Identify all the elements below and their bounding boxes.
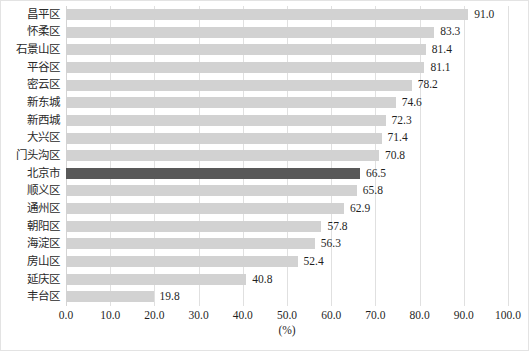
bar-row[interactable]: 海淀区56.3 — [66, 235, 508, 253]
bar[interactable] — [66, 150, 379, 161]
bar[interactable] — [66, 80, 412, 91]
category-label: 大兴区 — [27, 133, 60, 145]
bar[interactable] — [66, 203, 344, 214]
bar-value-label: 62.9 — [350, 203, 370, 215]
bar-row[interactable]: 怀柔区83.3 — [66, 24, 508, 42]
bar-row[interactable]: 北京市66.5 — [66, 165, 508, 183]
bar[interactable] — [66, 256, 298, 267]
category-label: 通州区 — [27, 203, 60, 215]
category-label: 丰台区 — [27, 291, 60, 303]
category-label: 石景山区 — [16, 44, 60, 56]
bar-row[interactable]: 石景山区81.4 — [66, 41, 508, 59]
bar[interactable] — [66, 97, 396, 108]
category-label: 门头沟区 — [16, 150, 60, 162]
bar[interactable] — [66, 133, 382, 144]
bar-row[interactable]: 延庆区40.8 — [66, 271, 508, 289]
bar[interactable] — [66, 44, 426, 55]
bar-value-label: 91.0 — [474, 9, 494, 21]
bar-value-label: 83.3 — [440, 27, 460, 39]
bar-row[interactable]: 顺义区65.8 — [66, 182, 508, 200]
bar-row[interactable]: 新东城74.6 — [66, 94, 508, 112]
category-label: 北京市 — [27, 168, 60, 180]
bar-rows: 昌平区91.0怀柔区83.3石景山区81.4平谷区81.1密云区78.2新东城7… — [66, 6, 508, 306]
bar-value-label: 65.8 — [363, 186, 383, 198]
category-label: 海淀区 — [27, 238, 60, 250]
bar-value-label: 71.4 — [388, 133, 408, 145]
bar-row[interactable]: 平谷区81.1 — [66, 59, 508, 77]
category-label: 新西城 — [27, 115, 60, 127]
bar-highlighted[interactable] — [66, 168, 360, 179]
bar-value-label: 40.8 — [252, 274, 272, 286]
bar-row[interactable]: 门头沟区70.8 — [66, 147, 508, 165]
category-label: 顺义区 — [27, 186, 60, 198]
category-label: 延庆区 — [27, 274, 60, 286]
bar-value-label: 52.4 — [304, 256, 324, 268]
plot-area: 昌平区91.0怀柔区83.3石景山区81.4平谷区81.1密云区78.2新东城7… — [66, 6, 508, 306]
x-tick-label: 30.0 — [189, 310, 209, 322]
bar-value-label: 78.2 — [418, 80, 438, 92]
bar[interactable] — [66, 291, 154, 302]
x-tick-label: 100.0 — [495, 310, 521, 322]
bar[interactable] — [66, 185, 357, 196]
bar-value-label: 19.8 — [160, 291, 180, 303]
bar[interactable] — [66, 115, 386, 126]
bar-row[interactable]: 密云区78.2 — [66, 77, 508, 95]
bar-value-label: 70.8 — [385, 150, 405, 162]
bar[interactable] — [66, 274, 246, 285]
bar-value-label: 66.5 — [366, 168, 386, 180]
bar-chart: 昌平区91.0怀柔区83.3石景山区81.4平谷区81.1密云区78.2新东城7… — [0, 0, 529, 351]
bar-row[interactable]: 大兴区71.4 — [66, 130, 508, 148]
x-tick-label: 10.0 — [100, 310, 120, 322]
bar-value-label: 81.4 — [432, 44, 452, 56]
category-label: 朝阳区 — [27, 221, 60, 233]
bar[interactable] — [66, 9, 468, 20]
bar[interactable] — [66, 27, 434, 38]
x-tick-label: 20.0 — [144, 310, 164, 322]
bar-value-label: 81.1 — [430, 62, 450, 74]
bar[interactable] — [66, 221, 321, 232]
gridline-100.0 — [508, 6, 509, 306]
bar[interactable] — [66, 238, 315, 249]
x-tick-label: 70.0 — [365, 310, 385, 322]
bar-value-label: 57.8 — [327, 221, 347, 233]
x-tick-label: 0.0 — [59, 310, 73, 322]
bar-row[interactable]: 丰台区19.8 — [66, 288, 508, 306]
bar[interactable] — [66, 62, 424, 73]
category-label: 怀柔区 — [27, 27, 60, 39]
x-tick-label: 80.0 — [410, 310, 430, 322]
bar-row[interactable]: 新西城72.3 — [66, 112, 508, 130]
category-label: 密云区 — [27, 80, 60, 92]
bar-value-label: 56.3 — [321, 238, 341, 250]
x-axis: 0.010.020.030.040.050.060.070.080.090.01… — [66, 306, 508, 326]
bar-value-label: 72.3 — [392, 115, 412, 127]
x-tick-label: 60.0 — [321, 310, 341, 322]
category-label: 房山区 — [27, 256, 60, 268]
category-label: 平谷区 — [27, 62, 60, 74]
bar-value-label: 74.6 — [402, 97, 422, 109]
x-tick-label: 50.0 — [277, 310, 297, 322]
bar-row[interactable]: 房山区52.4 — [66, 253, 508, 271]
category-label: 昌平区 — [27, 9, 60, 21]
x-tick-label: 40.0 — [233, 310, 253, 322]
x-axis-title: (%) — [66, 325, 508, 337]
category-label: 新东城 — [27, 97, 60, 109]
bar-row[interactable]: 朝阳区57.8 — [66, 218, 508, 236]
bar-row[interactable]: 昌平区91.0 — [66, 6, 508, 24]
x-tick-label: 90.0 — [454, 310, 474, 322]
bar-row[interactable]: 通州区62.9 — [66, 200, 508, 218]
